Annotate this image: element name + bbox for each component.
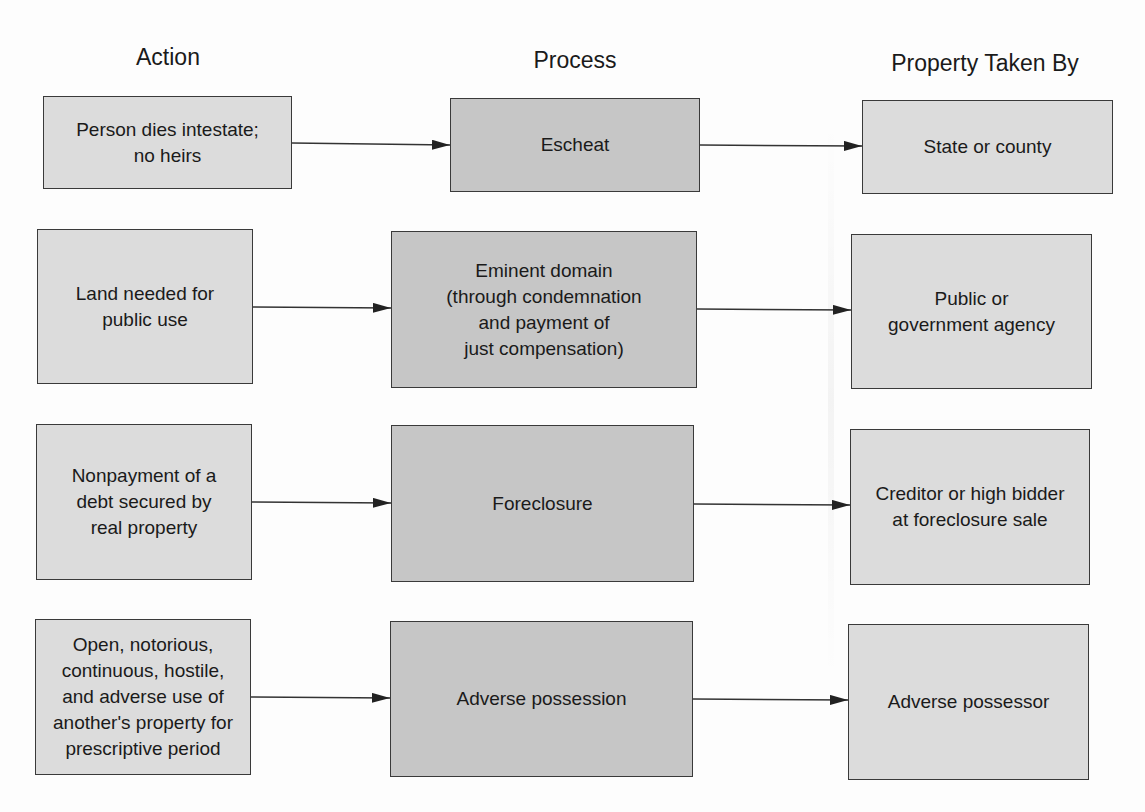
arrow-icon <box>694 504 850 505</box>
arrow-icon <box>253 307 391 308</box>
arrow-icon <box>252 502 391 503</box>
arrow-icon <box>700 145 862 146</box>
connector-arrows <box>0 0 1145 812</box>
arrow-icon <box>697 309 851 310</box>
arrow-icon <box>693 699 848 700</box>
arrow-icon <box>292 143 450 145</box>
arrow-icon <box>251 697 390 698</box>
